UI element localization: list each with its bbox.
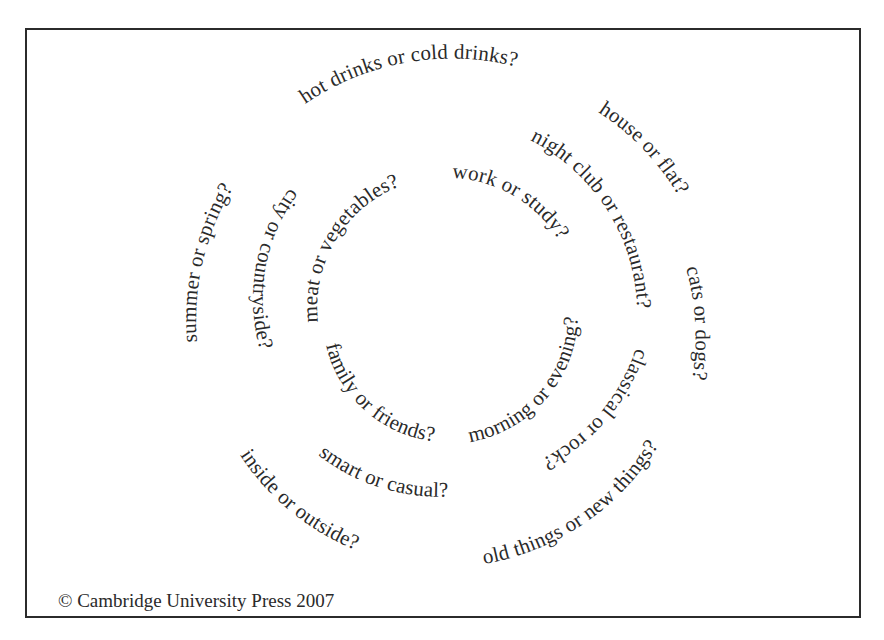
question-hot-drinks: hot drinks or cold drinks? [295,40,521,109]
copyright-notice: © Cambridge University Press 2007 [58,590,334,612]
question-family-friends: family or friends? [321,340,437,446]
question-spiral: hot drinks or cold drinks? house or flat… [0,0,884,640]
question-morning-evening: morning or evening? [466,316,583,447]
question-meat-vegetables: meat or vegetables? [298,168,402,323]
question-city-countryside: city or countryside? [248,185,306,352]
question-cats-dogs: cats or dogs? [681,263,714,382]
question-work-study: work or study? [451,159,574,243]
question-summer-spring: summer or spring? [177,178,237,343]
question-smart-casual: smart or casual? [315,440,449,502]
